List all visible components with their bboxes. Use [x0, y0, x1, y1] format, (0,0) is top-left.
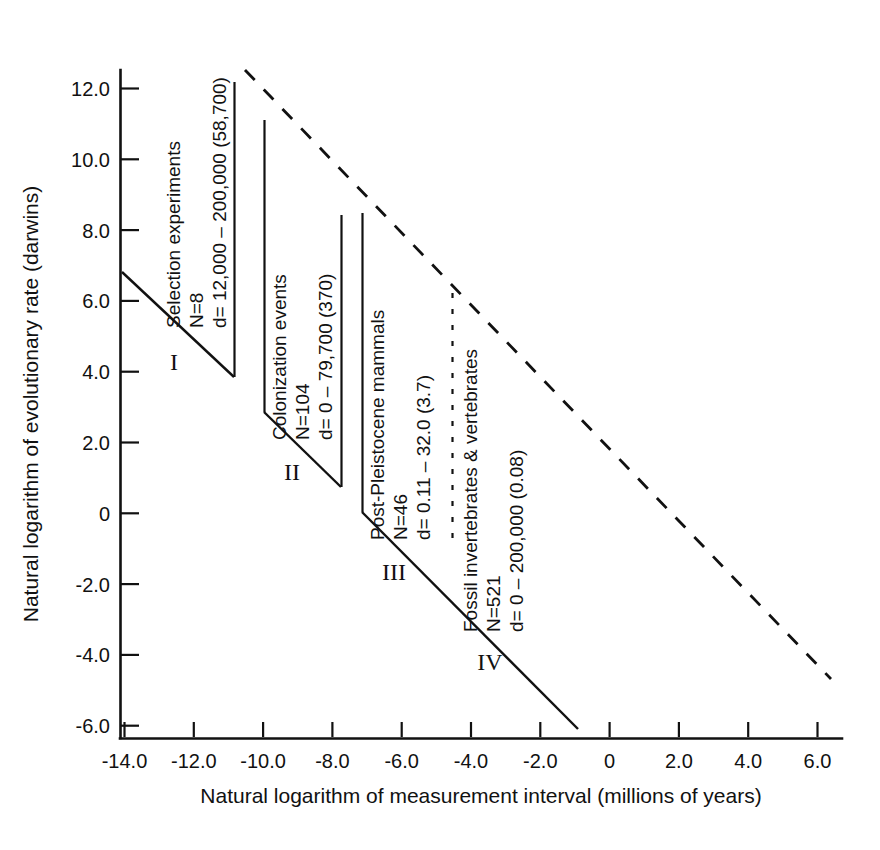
group-ii: II Colonization events N=104 d= 0 – 79,7… — [264, 120, 342, 487]
group-iii-d-label: d= 0.11 – 32.0 (3.7) — [413, 375, 434, 540]
x-tick-label: 6.0 — [804, 750, 832, 772]
x-tick-label: -2.0 — [523, 750, 557, 772]
x-tick-labels-group: -14.0 -12.0 -10.0 -8.0 -6.0 -4.0 -2.0 0 … — [102, 750, 832, 772]
group-iv-d-label: d= 0 – 200,000 (0.08) — [506, 450, 527, 632]
x-tick-label: 4.0 — [734, 750, 762, 772]
y-tick-label: 6.0 — [82, 290, 110, 312]
y-tick-label: -2.0 — [76, 574, 110, 596]
evolutionary-rate-chart: 12.0 10.0 8.0 6.0 4.0 2.0 0 -2.0 -4.0 -6… — [0, 0, 880, 850]
y-ticks-group — [121, 89, 139, 726]
figure-container: 12.0 10.0 8.0 6.0 4.0 2.0 0 -2.0 -4.0 -6… — [0, 0, 880, 850]
group-i: I Selection experiments N=8 d= 12,000 – … — [122, 77, 235, 377]
group-ii-n-label: N=104 — [292, 383, 313, 440]
group-iii-iv: III Post-Pleistocene mammals N=46 d= 0.1… — [362, 213, 578, 729]
x-tick-label: 0 — [604, 750, 615, 772]
y-tick-labels-group: 12.0 10.0 8.0 6.0 4.0 2.0 0 -2.0 -4.0 -6… — [71, 78, 110, 737]
group-ii-name-label: Colonization events — [269, 274, 290, 440]
y-axis-title: Natural logarithm of evolutionary rate (… — [19, 186, 42, 623]
y-tick-label: 0 — [99, 503, 110, 525]
x-tick-label: -12.0 — [171, 750, 217, 772]
group-iv-n-label: N=521 — [483, 575, 504, 632]
y-tick-label: -6.0 — [76, 715, 110, 737]
x-tick-label: -8.0 — [315, 750, 349, 772]
x-tick-label: -6.0 — [384, 750, 418, 772]
x-axis-title: Natural logarithm of measurement interva… — [200, 784, 761, 807]
group-i-numeral: I — [170, 349, 178, 375]
x-tick-label: -14.0 — [102, 750, 148, 772]
x-tick-label: -10.0 — [240, 750, 286, 772]
group-iii-name-label: Post-Pleistocene mammals — [367, 310, 388, 540]
group-ii-d-label: d= 0 – 79,700 (370) — [315, 274, 336, 440]
y-tick-label: -4.0 — [76, 644, 110, 666]
group-i-name-label: Selection experiments — [163, 141, 184, 328]
y-tick-label: 12.0 — [71, 78, 110, 100]
group-i-d-label: d= 12,000 – 200,000 (58,700) — [209, 77, 230, 328]
y-tick-label: 10.0 — [71, 149, 110, 171]
group-iv-name-label: Fossil invertebrates & vertebrates — [460, 349, 481, 632]
group-i-n-label: N=8 — [186, 293, 207, 328]
y-tick-label: 2.0 — [82, 432, 110, 454]
group-iii-numeral: III — [382, 559, 406, 585]
group-ii-numeral: II — [284, 459, 300, 485]
x-ticks-group — [125, 722, 818, 737]
group-iv-numeral: IV — [477, 649, 503, 675]
group-iii-n-label: N=46 — [390, 494, 411, 540]
x-tick-label: 2.0 — [665, 750, 693, 772]
x-tick-label: -4.0 — [454, 750, 488, 772]
y-tick-label: 8.0 — [82, 220, 110, 242]
y-tick-label: 4.0 — [82, 361, 110, 383]
